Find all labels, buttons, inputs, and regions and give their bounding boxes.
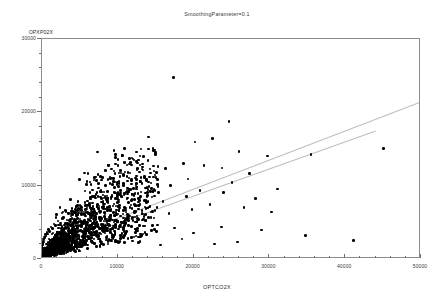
x-tick-minor (405, 256, 406, 258)
y-tick-minor (39, 82, 41, 83)
y-tick-minor (39, 53, 41, 54)
chart-root: SmoothingParameter=0.1 OPXP02X OPTCO2X 0… (0, 0, 434, 305)
x-tick-minor (177, 256, 178, 258)
x-tick-major (420, 254, 421, 258)
y-tick-minor (39, 126, 41, 127)
x-tick-minor (329, 256, 330, 258)
x-tick-label: 50000 (400, 263, 434, 269)
x-tick-minor (359, 256, 360, 258)
x-tick-minor (208, 256, 209, 258)
y-tick-label: 20000 (2, 108, 36, 114)
x-axis-label: OPTCO2X (0, 284, 434, 290)
x-tick-minor (284, 256, 285, 258)
y-tick-minor (39, 155, 41, 156)
x-tick-label: 40000 (324, 263, 364, 269)
x-tick-label: 10000 (97, 263, 137, 269)
chart-title: SmoothingParameter=0.1 (0, 11, 434, 17)
y-tick-major (37, 38, 41, 39)
x-tick-minor (162, 256, 163, 258)
y-tick-minor (39, 243, 41, 244)
x-tick-major (193, 254, 194, 258)
y-tick-major (37, 111, 41, 112)
x-tick-minor (102, 256, 103, 258)
x-tick-minor (71, 256, 72, 258)
y-tick-major (37, 258, 41, 259)
y-tick-minor (39, 229, 41, 230)
y-tick-label: 30000 (2, 35, 36, 41)
x-tick-minor (238, 256, 239, 258)
x-tick-label: 0 (21, 263, 61, 269)
y-tick-minor (39, 97, 41, 98)
x-tick-major (268, 254, 269, 258)
x-tick-major (41, 254, 42, 258)
x-tick-minor (223, 256, 224, 258)
x-tick-minor (390, 256, 391, 258)
x-tick-label: 20000 (173, 263, 213, 269)
y-tick-minor (39, 170, 41, 171)
x-tick-major (344, 254, 345, 258)
x-tick-minor (86, 256, 87, 258)
y-tick-label: 10000 (2, 182, 36, 188)
plot-frame (41, 38, 420, 258)
y-tick-label: 0 (2, 255, 36, 261)
x-tick-minor (299, 256, 300, 258)
x-tick-minor (253, 256, 254, 258)
x-tick-minor (56, 256, 57, 258)
x-tick-major (117, 254, 118, 258)
y-tick-minor (39, 67, 41, 68)
x-tick-minor (132, 256, 133, 258)
x-tick-minor (375, 256, 376, 258)
x-tick-minor (147, 256, 148, 258)
y-tick-minor (39, 141, 41, 142)
x-tick-label: 30000 (248, 263, 288, 269)
y-tick-minor (39, 214, 41, 215)
y-tick-minor (39, 199, 41, 200)
y-tick-major (37, 185, 41, 186)
x-tick-minor (314, 256, 315, 258)
